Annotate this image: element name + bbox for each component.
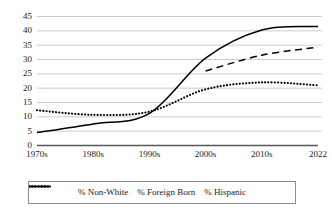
legend-item-non-white[interactable]: % Non-White — [78, 188, 128, 197]
chart-legend: % Non-White% Foreign Born% Hispanic — [28, 181, 296, 204]
legend-label: % Non-White — [78, 188, 128, 197]
x-tick-label-2022: 2022 — [296, 150, 332, 159]
gridlines — [37, 17, 322, 132]
legend-item-hispanic[interactable]: % Hispanic — [204, 188, 246, 197]
x-tick-label-1970s: 1970s — [15, 150, 59, 159]
series-line-hispanic — [206, 47, 318, 71]
legend-label: % Hispanic — [204, 188, 246, 197]
dashed-line-swatch — [29, 182, 51, 191]
legend-item-foreign-born[interactable]: % Foreign Born — [137, 188, 195, 197]
legend-label: % Foreign Born — [137, 188, 195, 197]
x-tick-label-2000s: 2000s — [184, 150, 228, 159]
x-tick-label-1980s: 1980s — [71, 150, 115, 159]
x-tick-label-1990s: 1990s — [127, 150, 171, 159]
x-tick-label-2010s: 2010s — [240, 150, 284, 159]
